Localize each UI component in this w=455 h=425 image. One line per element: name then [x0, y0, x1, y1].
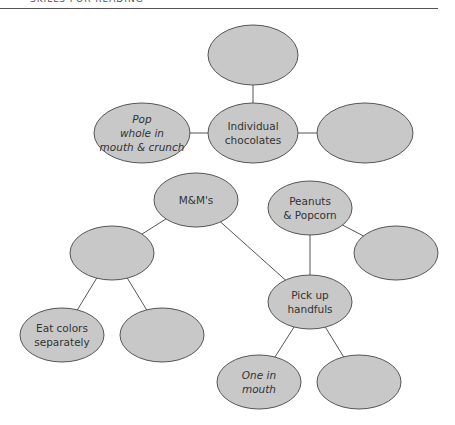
node-top	[208, 25, 298, 85]
node-label-peanuts-popcorn: Peanuts & Popcorn	[283, 194, 337, 222]
node-label-pick-up-handfuls: Pick up handfuls	[287, 288, 332, 316]
node-label-individual-chocolates: Individual chocolates	[225, 119, 281, 147]
node-blank3	[120, 308, 204, 362]
node-right2	[354, 226, 438, 280]
node-label-eat-colors: Eat colors separately	[34, 321, 90, 349]
node-left2	[70, 226, 154, 280]
node-blank4	[317, 355, 401, 409]
node-right1	[317, 103, 413, 163]
concept-map	[0, 0, 455, 425]
node-label-mms: M&M's	[179, 193, 214, 207]
node-label-one-in-mouth: One in mouth	[242, 368, 276, 396]
node-label-pop: Pop whole in mouth & crunch	[100, 112, 185, 154]
nodes	[20, 25, 438, 409]
